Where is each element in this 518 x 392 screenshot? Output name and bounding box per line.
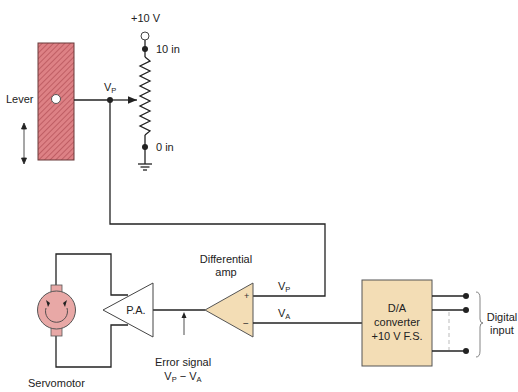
- pot-bottom-dot: [142, 144, 148, 150]
- diff-amp-label-2: amp: [215, 266, 236, 278]
- lever-label: Lever: [6, 93, 34, 105]
- minus-sign: −: [243, 318, 249, 329]
- dac-label-2: converter: [374, 316, 420, 328]
- vp-input-label: VP: [278, 280, 290, 294]
- digital-input-bit-2: [463, 307, 469, 313]
- lever-pivot-icon: [52, 95, 61, 104]
- error-label-2: VP − VA: [164, 370, 201, 384]
- pot-top-label: 10 in: [156, 43, 180, 55]
- vp-label: VP: [104, 81, 116, 95]
- digital-input-label-1: Digital: [487, 311, 518, 323]
- lever: [38, 43, 74, 160]
- va-input-label: VA: [278, 307, 290, 321]
- dac-label-1: D/A: [388, 302, 407, 314]
- digital-input-bit-msb: [463, 293, 469, 299]
- potentiometer: [138, 40, 152, 170]
- error-pointer-icon: [182, 312, 187, 335]
- error-label-1: Error signal: [155, 356, 211, 368]
- supply-label: +10 V: [131, 12, 161, 24]
- diff-amp-label-1: Differential: [200, 253, 252, 265]
- plus-sign: +: [244, 291, 249, 301]
- servomotor-label: Servomotor: [28, 377, 85, 389]
- pot-top-dot: [142, 46, 148, 52]
- digital-input-lines: [432, 296, 466, 351]
- digital-input-bit-lsb: [463, 348, 469, 354]
- servomotor: [38, 285, 76, 336]
- dac-label-3: +10 V F.S.: [371, 330, 422, 342]
- motor-wire-top: [56, 254, 128, 295]
- pot-bottom-label: 0 in: [156, 141, 174, 153]
- motion-arrow-icon: [22, 123, 27, 164]
- digital-input-label-2: input: [490, 324, 514, 336]
- bracket-icon: [476, 292, 483, 357]
- power-amp-label: P.A.: [126, 304, 145, 316]
- servo-diagram: Lever VP +10 V 10 in 0 in + − Differenti…: [0, 0, 518, 392]
- supply-terminal-icon: [141, 32, 149, 40]
- motor-wire-bottom: [56, 325, 128, 367]
